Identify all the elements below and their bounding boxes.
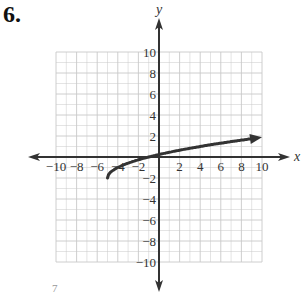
x-tick-label: 2 (176, 159, 183, 174)
y-tick-label: 2 (150, 129, 157, 144)
x-axis-label: x (293, 149, 301, 164)
cropped-text-fragment: 7 (52, 282, 58, 294)
x-tick-label: 6 (218, 159, 225, 174)
y-tick-label: −8 (142, 234, 156, 249)
x-tick-label: −10 (46, 159, 66, 174)
y-tick-label: −10 (136, 255, 156, 270)
y-tick-label: −6 (142, 213, 156, 228)
curve-arrow-icon (249, 134, 262, 144)
y-tick-label: −2 (142, 171, 156, 186)
y-tick-label: 8 (150, 66, 157, 81)
x-tick-label: 10 (256, 159, 269, 174)
y-tick-label: 10 (143, 45, 156, 60)
x-tick-label: −8 (70, 159, 84, 174)
x-tick-label: 8 (238, 159, 245, 174)
y-tick-label: 6 (150, 87, 157, 102)
x-tick-label: −6 (90, 159, 104, 174)
y-tick-label: −4 (142, 192, 156, 207)
x-tick-label: 4 (197, 159, 204, 174)
y-axis-label: y (154, 2, 163, 17)
coordinate-plane: −10−8−6−4−2246810108642−2−4−6−8−10 x y (0, 0, 303, 295)
y-tick-label: 4 (150, 108, 157, 123)
